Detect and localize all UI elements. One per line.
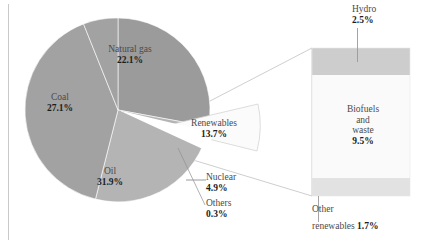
pie-label-renewables: Renewables 13.7% bbox=[172, 118, 256, 139]
bar-segment-hydro bbox=[312, 48, 410, 75]
bar-label-other-renewables-line2: renewables bbox=[312, 221, 357, 231]
pie-label-others-name: Others bbox=[206, 198, 270, 209]
bar-label-other-renewables-line1: Other bbox=[312, 204, 424, 215]
bar-label-other-renewables-percent: 1.7% bbox=[357, 221, 378, 231]
pie-label-natural-gas: Natural gas 22.1% bbox=[92, 44, 168, 65]
pie-slice-natural-gas bbox=[118, 18, 210, 127]
bar-label-hydro-percent: 2.5% bbox=[352, 15, 410, 26]
bar-label-hydro: Hydro 2.5% bbox=[352, 4, 410, 25]
bar-label-biofuels-percent: 9.5% bbox=[330, 136, 396, 147]
pie-label-nuclear: Nuclear 4.9% bbox=[206, 172, 270, 193]
bar-label-hydro-name: Hydro bbox=[352, 4, 410, 15]
bar-label-other-renewables: Other renewables 1.7% bbox=[312, 204, 424, 233]
pie-label-others: Others 0.3% bbox=[206, 198, 270, 219]
bar-segment-other-renewables bbox=[312, 178, 410, 196]
pie-label-renewables-percent: 13.7% bbox=[172, 129, 256, 140]
bar-label-biofuels-line2: and bbox=[330, 115, 396, 126]
pie-label-coal-name: Coal bbox=[28, 92, 92, 103]
bar-label-biofuels-and-waste: Biofuels and waste 9.5% bbox=[330, 104, 396, 147]
bar-label-biofuels-line1: Biofuels bbox=[330, 104, 396, 115]
pie-label-oil-name: Oil bbox=[82, 166, 138, 177]
pie-label-nuclear-percent: 4.9% bbox=[206, 183, 270, 194]
chart-figure: Natural gas 22.1% Coal 27.1% Oil 31.9% R… bbox=[0, 0, 424, 244]
pie-label-coal-percent: 27.1% bbox=[28, 103, 92, 114]
pie-label-oil: Oil 31.9% bbox=[82, 166, 138, 187]
pie-label-natural-gas-name: Natural gas bbox=[92, 44, 168, 55]
pie-label-natural-gas-percent: 22.1% bbox=[92, 55, 168, 66]
pie-label-nuclear-name: Nuclear bbox=[206, 172, 270, 183]
pie-label-others-percent: 0.3% bbox=[206, 209, 270, 220]
bar-label-biofuels-line3: waste bbox=[330, 125, 396, 136]
pie-label-coal: Coal 27.1% bbox=[28, 92, 92, 113]
pie-label-oil-percent: 31.9% bbox=[82, 177, 138, 188]
pie-label-renewables-name: Renewables bbox=[172, 118, 256, 129]
